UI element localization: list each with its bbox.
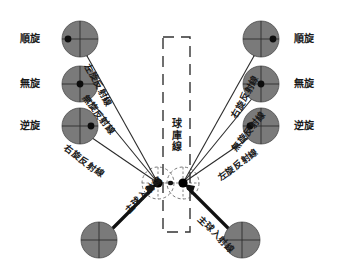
left-spin-label-top: 順旋 xyxy=(20,33,41,44)
left-spin-label-bottom: 逆旋 xyxy=(20,120,41,131)
diagram-canvas: 順旋 無旋 逆旋 左旋反射線 無旋反射線 右旋反射線 主球入射線 球庫線 順旋 … xyxy=(0,0,341,269)
left-ball-top xyxy=(62,21,98,57)
right-spin-label-middle: 無旋 xyxy=(294,78,315,89)
cushion-line-label: 球庫線 xyxy=(171,118,183,153)
right-cushion-dot xyxy=(169,181,173,185)
left-ball-bottom-spin-dot xyxy=(88,123,95,130)
right-ball-top-spin-dot xyxy=(270,36,277,43)
left-ball-top-spin-dot xyxy=(65,36,72,43)
right-spin-label-top: 順旋 xyxy=(294,33,315,44)
right-contact-ball xyxy=(178,178,187,187)
left-spin-label-middle: 無旋 xyxy=(20,78,41,89)
left-ball-middle-spin-dot xyxy=(77,81,84,88)
left-cue-ball xyxy=(81,222,117,258)
right-ball-top xyxy=(243,21,279,57)
right-spin-label-bottom: 逆旋 xyxy=(294,120,315,131)
